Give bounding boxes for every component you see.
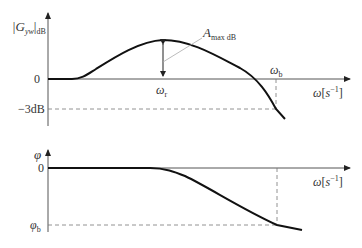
- gyw-text: |G: [12, 19, 25, 34]
- amax-symbol: A: [203, 25, 211, 40]
- zero-db-label: 0: [34, 73, 40, 85]
- amax-label: Amax dB: [203, 26, 236, 39]
- minus3db-label: −3dB: [18, 103, 45, 115]
- bode-diagram: [0, 0, 362, 248]
- phase-zero-label: 0: [38, 162, 44, 174]
- bracket-close: ]: [339, 86, 343, 100]
- omega-b-label: ωb: [270, 64, 282, 76]
- magnitude-x-axis-label: ω[s−1]: [313, 87, 343, 99]
- phi-b-label: φb: [30, 219, 41, 231]
- phi-b-symbol: φ: [30, 218, 37, 232]
- phase-x-axis-label: ω[s−1]: [313, 176, 343, 188]
- omega-r-label: ωr: [156, 84, 167, 96]
- phase-plot: [48, 150, 350, 232]
- omega-b-subscript: b: [278, 70, 282, 79]
- bracket-close: ]: [339, 175, 343, 189]
- gyw-subscript: yw: [25, 27, 34, 36]
- unit-exponent: −1: [330, 85, 339, 94]
- phase-y-axis-label: φ: [34, 148, 41, 161]
- phase-curve: [48, 168, 302, 230]
- phi-b-subscript: b: [37, 225, 41, 234]
- amax-subscript: max dB: [211, 33, 236, 42]
- db-unit: dB: [36, 27, 45, 36]
- magnitude-plot: [48, 13, 350, 126]
- omega-r-subscript: r: [164, 90, 167, 99]
- magnitude-y-axis-label: |Gyw|dB: [12, 20, 46, 33]
- unit-exponent: −1: [330, 174, 339, 183]
